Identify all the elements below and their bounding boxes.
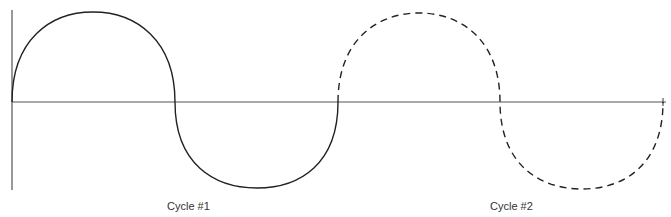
- cycle-2-wave: [338, 13, 663, 189]
- cycle-1-wave: [12, 12, 338, 188]
- sine-wave-diagram: [0, 0, 671, 217]
- cycle-1-label: Cycle #1: [167, 200, 210, 212]
- cycle-2-label: Cycle #2: [490, 200, 533, 212]
